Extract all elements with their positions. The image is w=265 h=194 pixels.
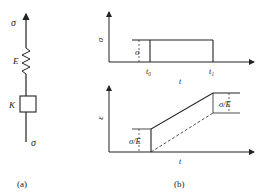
right-step-label: σ/E bbox=[219, 99, 232, 109]
panel-a-model bbox=[20, 14, 36, 142]
stress-ylabel: σ bbox=[95, 37, 105, 42]
left-step-label: σ/E bbox=[129, 136, 142, 146]
strain-xlabel: t bbox=[179, 157, 182, 166]
stress-level-label: σ bbox=[135, 47, 140, 57]
viscous-strain-dashed bbox=[151, 113, 213, 152]
dashpot-label: K bbox=[8, 100, 16, 110]
caption-a: (a) bbox=[17, 179, 27, 189]
bottom-sigma-label: σ bbox=[31, 137, 37, 148]
caption-b: (b) bbox=[174, 179, 185, 189]
t0-label: t₀ bbox=[146, 67, 151, 76]
strain-ylabel: ε bbox=[95, 116, 105, 120]
creep-model-diagram: σ E K σ (a) σ σ t₀ t₁ t ε σ/E σ/E t (b) bbox=[0, 0, 265, 194]
dashpot-box bbox=[20, 96, 36, 112]
spring-label: E bbox=[12, 56, 19, 66]
spring-icon bbox=[22, 48, 30, 74]
t1-label: t₁ bbox=[209, 67, 214, 76]
top-sigma-label: σ bbox=[11, 17, 17, 28]
stress-time-plot bbox=[109, 12, 254, 62]
stress-xlabel: t bbox=[179, 77, 182, 86]
